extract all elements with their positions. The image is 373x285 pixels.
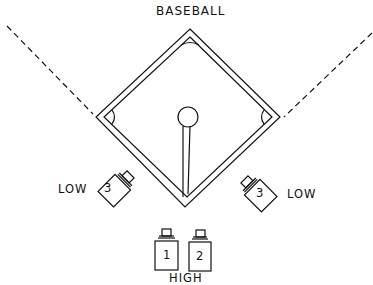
pitchers-mound	[178, 107, 198, 127]
high-label: HIGH	[169, 271, 203, 285]
camera-right-label: LOW	[287, 187, 316, 201]
mound-path-right	[188, 126, 190, 194]
camera-left-number: 3	[104, 181, 111, 195]
camera-high-2-number: 2	[196, 249, 203, 263]
diagram-title: BASEBALL	[156, 4, 225, 18]
baseball-camera-diagram	[0, 0, 373, 285]
left-foul-line	[7, 26, 93, 114]
camera-left-label: LOW	[58, 182, 87, 196]
third-base-arc	[112, 110, 115, 124]
first-base-arc	[262, 110, 265, 124]
camera-right-number: 3	[256, 186, 263, 200]
right-foul-line	[284, 33, 372, 117]
camera-high-1-number: 1	[163, 248, 170, 262]
